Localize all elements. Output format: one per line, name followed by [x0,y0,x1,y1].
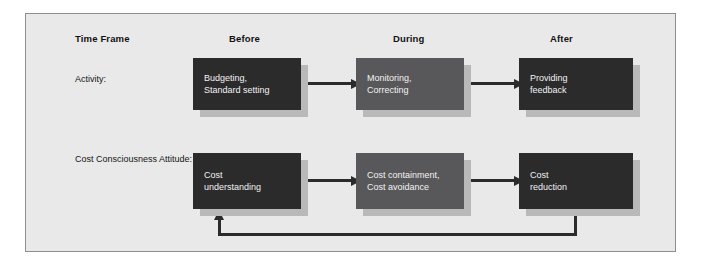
node-label: Cost containment, Cost avoidance [367,169,440,194]
node-label: Monitoring, Correcting [367,72,412,97]
row-label-activity: Activity: [75,73,106,86]
column-header-after: After [550,33,573,44]
node-body: Cost reduction [519,153,633,209]
diagram-frame: Time Frame Before During After Activity:… [25,13,676,252]
node-cost-understanding[interactable]: Cost understanding [193,153,301,209]
arrow-row1-during-to-after [471,82,515,85]
arrow-row1-before-to-during [308,82,352,85]
node-label: Providing feedback [530,72,568,97]
node-budgeting-standard-setting[interactable]: Budgeting, Standard setting [193,58,301,110]
node-monitoring-correcting[interactable]: Monitoring, Correcting [356,58,464,110]
node-body: Providing feedback [519,58,633,110]
node-label: Budgeting, Standard setting [204,72,270,97]
arrow-row2-before-to-during [308,179,352,182]
node-body: Monitoring, Correcting [356,58,464,110]
process-flow-diagram: Time Frame Before During After Activity:… [0,0,705,266]
column-header-during: During [393,33,425,44]
arrow-row2-during-to-after [471,179,515,182]
node-cost-reduction[interactable]: Cost reduction [519,153,633,209]
node-label: Cost reduction [530,169,567,194]
row-label-column-header: Time Frame [75,33,130,44]
column-header-before: Before [229,33,260,44]
node-body: Cost containment, Cost avoidance [356,153,464,209]
feedback-loop-segment-up [218,220,221,236]
node-cost-containment-avoidance[interactable]: Cost containment, Cost avoidance [356,153,464,209]
row-label-cost-consciousness-attitude: Cost Consciousness Attitude: [75,153,192,166]
feedback-loop-segment-left [218,233,577,236]
node-label: Cost understanding [204,169,261,194]
node-providing-feedback[interactable]: Providing feedback [519,58,633,110]
node-body: Cost understanding [193,153,301,209]
node-body: Budgeting, Standard setting [193,58,301,110]
